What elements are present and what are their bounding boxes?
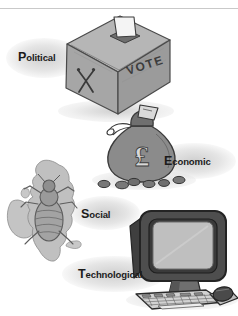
label-economic-rest: conomic [172,156,210,167]
computer-illustration [128,206,238,314]
western-isles [21,188,29,198]
label-social-capital: S [81,207,89,221]
label-political-capital: P [18,50,26,64]
coin [128,178,140,185]
label-economic: Economic [164,155,211,168]
label-political-rest: olitical [26,52,55,63]
coin [173,176,185,183]
label-technological-capital: T [78,267,86,281]
coin [143,180,155,187]
coin [159,180,170,187]
label-political: Political [18,51,56,64]
pest-analysis-figure: VOTE £ [0,0,238,316]
label-technological-rest: echnological [86,269,143,280]
coin [116,181,129,189]
money-bag-illustration: £ [96,104,188,190]
label-social: Social [81,208,110,221]
coin [98,180,110,187]
ballot-box-illustration: VOTE [62,12,174,117]
banknote [138,105,158,120]
south-east-coast [66,241,81,249]
label-social-rest: ocial [89,209,110,220]
label-technological: Technological [78,268,142,281]
label-economic-capital: E [164,154,172,168]
ballot-paper [114,17,136,37]
pound-symbol: £ [135,139,150,172]
top-divider-rule [0,8,238,9]
